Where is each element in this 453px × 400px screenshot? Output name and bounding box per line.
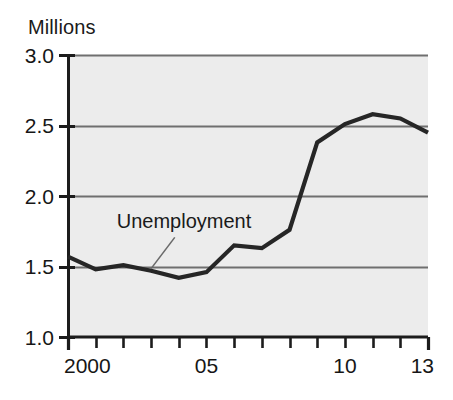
unemployment-line-chart: Millions 3.02.52.01.51.0 2000051013 Unem…	[0, 0, 453, 400]
x-axis-tick-label: 2000	[64, 354, 111, 377]
y-axis-unit-label: Millions	[28, 16, 95, 39]
x-axis-tick-marks	[69, 337, 429, 350]
y-axis-tick-label: 1.5	[25, 255, 54, 278]
x-axis-tick-labels: 2000051013	[64, 354, 434, 377]
x-axis-tick-label: 13	[411, 354, 434, 377]
y-axis-tick-label: 2.5	[25, 114, 54, 137]
y-axis-tick-label: 2.0	[25, 185, 54, 208]
x-axis-tick-label: 10	[333, 354, 356, 377]
x-axis-tick-label: 05	[195, 354, 218, 377]
y-axis-tick-label: 1.0	[25, 326, 54, 349]
y-axis-tick-labels: 3.02.52.01.51.0	[25, 44, 54, 349]
series-callout-label: Unemployment	[117, 210, 252, 232]
y-axis-tick-label: 3.0	[25, 44, 54, 67]
chart-canvas: 3.02.52.01.51.0 2000051013 Unemployment	[0, 0, 453, 400]
